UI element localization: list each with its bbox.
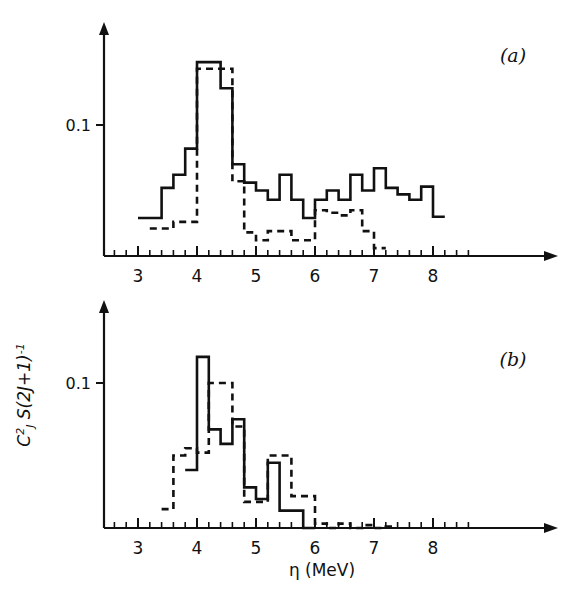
panel-b-axes: 0.1345678(b) <box>66 300 558 558</box>
scientific-figure: 0.1345678(a)0.1345678(b)η (MeV)C2J S(2J+… <box>0 0 581 597</box>
figure-container: 0.1345678(a)0.1345678(b)η (MeV)C2J S(2J+… <box>0 0 581 597</box>
x-tick-label: 8 <box>428 538 439 558</box>
panel-a-solid-curve <box>138 62 445 218</box>
y-tick-label: 0.1 <box>66 116 91 135</box>
x-axis-title: η (MeV) <box>289 560 355 580</box>
x-tick-label: 4 <box>192 266 203 286</box>
x-tick-label: 8 <box>428 266 439 286</box>
x-tick-label: 4 <box>192 538 203 558</box>
panel-a-axes: 0.1345678(a) <box>66 22 558 286</box>
x-tick-label: 3 <box>133 266 144 286</box>
x-tick-label: 7 <box>369 266 380 286</box>
panel-label-b: (b) <box>500 348 527 370</box>
y-axis-title: C2J S(2J+1)-1 <box>14 343 37 446</box>
x-tick-label: 6 <box>310 266 321 286</box>
x-tick-label: 3 <box>133 538 144 558</box>
panel-label-a: (a) <box>500 44 526 66</box>
x-tick-label: 5 <box>251 266 262 286</box>
svg-text:C2J S(2J+1)-1: C2J S(2J+1)-1 <box>14 343 37 446</box>
x-tick-label: 5 <box>251 538 262 558</box>
y-tick-label: 0.1 <box>66 374 91 393</box>
x-tick-label: 7 <box>369 538 380 558</box>
x-tick-label: 6 <box>310 538 321 558</box>
